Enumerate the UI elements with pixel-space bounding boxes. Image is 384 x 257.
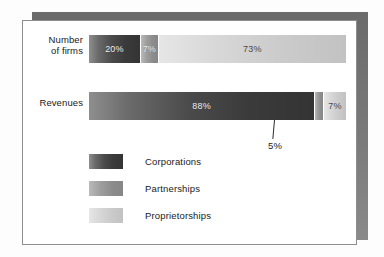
legend-item-partnerships: Partnerships [89,180,211,197]
callout-label-5-percent: 5% [258,140,292,151]
bar-segment-corporations-revenues: 88% [89,92,314,120]
bar-segment-proprietorships-revenues: 7% [323,92,346,120]
row-label-number-of-firms: Number of firms [21,34,83,56]
bar-segment-partnerships-firms: 7% [140,35,158,63]
partnerships-swatch [89,181,123,196]
corporations-swatch [89,154,123,169]
segment-value-label: 73% [243,44,262,54]
chart-legend: Corporations Partnerships Proprietorship… [89,153,211,234]
plot-area: Number of firms 20% 7% 73% Revenues 88% [23,21,356,244]
segment-value-label: 88% [192,101,211,111]
bar-segment-corporations-firms: 20% [89,35,140,63]
chart-figure: Number of firms 20% 7% 73% Revenues 88% [0,0,384,257]
row-label-revenues: Revenues [21,97,83,108]
legend-label: Corporations [145,156,201,167]
proprietorships-swatch [89,208,123,223]
legend-item-proprietorships: Proprietorships [89,207,211,224]
stacked-bar-revenues: 88% 7% [89,92,346,120]
segment-value-label: 7% [143,44,156,54]
segment-value-label: 20% [105,44,124,54]
legend-label: Partnerships [145,183,200,194]
callout-leader-line [272,120,275,139]
bar-segment-proprietorships-firms: 73% [158,35,346,63]
bar-segment-partnerships-revenues [314,92,323,120]
legend-label: Proprietorships [145,210,211,221]
legend-item-corporations: Corporations [89,153,211,170]
segment-value-label: 7% [328,101,341,111]
stacked-bar-number-of-firms: 20% 7% 73% [89,35,346,63]
chart-card: Number of firms 20% 7% 73% Revenues 88% [22,20,357,245]
